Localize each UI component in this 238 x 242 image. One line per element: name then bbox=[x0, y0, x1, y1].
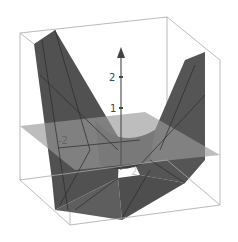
surface-front-right bbox=[118, 175, 185, 220]
saddle-surface-plot: 2 1 -2 2 bbox=[0, 0, 238, 242]
z-axis-arrow-icon bbox=[117, 47, 125, 58]
x-axis-label-neg: -2 bbox=[58, 135, 68, 146]
z-tick-label-1: 1 bbox=[110, 103, 116, 114]
z-tick-label-2: 2 bbox=[109, 72, 115, 83]
y-axis-label-pos: 2 bbox=[131, 166, 137, 177]
